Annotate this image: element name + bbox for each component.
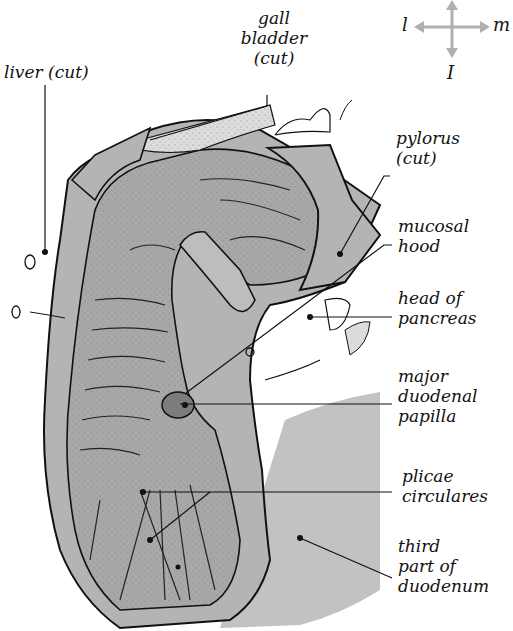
- compass-lateral-label: l: [402, 14, 408, 35]
- orientation-compass: [414, 0, 490, 58]
- label-liver-cut: liver (cut): [4, 62, 89, 82]
- label-third-part-duodenum: third part of duodenum: [398, 536, 489, 596]
- label-pylorus: pylorus (cut): [396, 128, 460, 168]
- duodenum-diagram: l m I liver (cut) gall bladder (cut) pyl…: [0, 0, 513, 631]
- compass-medial-label: m: [493, 14, 510, 35]
- label-head-of-pancreas: head of pancreas: [398, 288, 477, 328]
- compass-inferior-label: I: [447, 62, 454, 83]
- papilla-shape: [162, 392, 194, 418]
- label-plicae-circulares: plicae circulares: [402, 466, 488, 506]
- label-mucosal-hood: mucosal hood: [398, 216, 469, 256]
- label-gall-bladder: gall bladder (cut): [234, 8, 314, 68]
- label-major-duodenal-papilla: major duodenal papilla: [398, 366, 478, 426]
